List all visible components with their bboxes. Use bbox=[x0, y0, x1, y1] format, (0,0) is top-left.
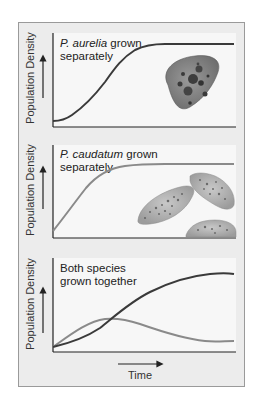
panel3-aurelia-curve bbox=[53, 273, 234, 347]
paramecium-aurelia-illustration bbox=[166, 56, 219, 109]
panel3-caudatum-curve bbox=[53, 319, 234, 347]
chart-graphics bbox=[0, 0, 256, 402]
paramecium-caudatum-illustration bbox=[138, 173, 236, 237]
